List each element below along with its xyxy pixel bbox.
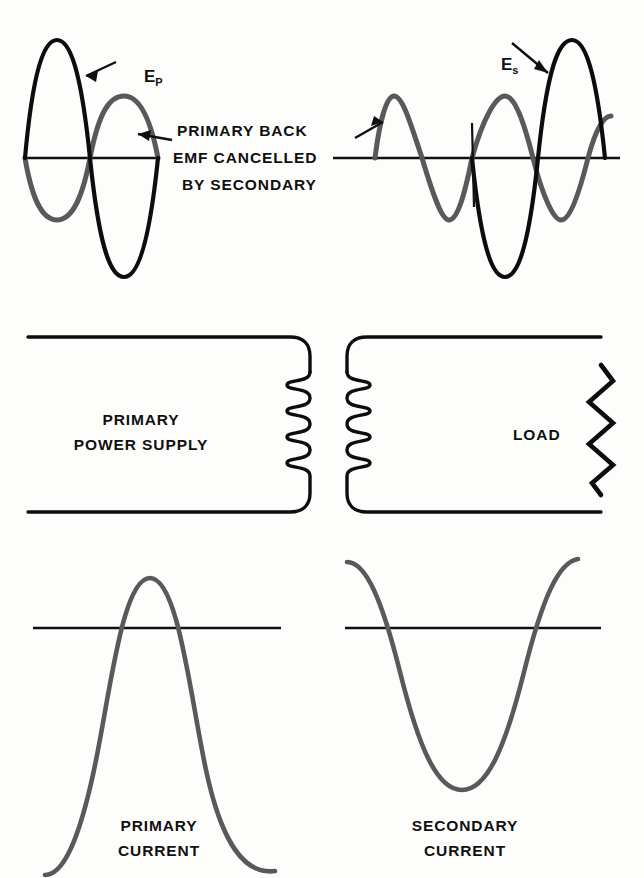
back-emf-annotation-line1: PRIMARY BACK — [177, 121, 308, 141]
secondary-current-label-line1: SECONDARY — [397, 816, 533, 836]
load-label: LOAD — [513, 425, 561, 445]
ep-leader-arrow — [86, 62, 116, 82]
secondary-bottom-wire — [347, 477, 601, 512]
primary-coil — [287, 372, 310, 476]
primary-source-label-line1: PRIMARY — [66, 410, 216, 430]
secondary-top-wire — [347, 337, 601, 372]
primary-top-wire — [28, 337, 310, 372]
primary-source-label-line2: POWER SUPPLY — [28, 435, 254, 455]
secondary-current-label-line2: CURRENT — [397, 841, 533, 861]
transformer-diagram-page: EP Es PRIMARY BACK EMF CANCELLED BY SECO… — [0, 0, 644, 878]
primary-bottom-wire — [28, 477, 310, 512]
load-resistor — [589, 365, 613, 495]
primary-current-label-line2: CURRENT — [104, 841, 214, 861]
secondary-coil — [347, 372, 370, 476]
es-label: Es — [482, 32, 518, 99]
ep-label: EP — [125, 44, 163, 111]
top-voltage-waveforms — [25, 40, 620, 277]
back-emf-annotation-line3: BY SECONDARY — [182, 175, 317, 195]
back-emf-annotation-line2: EMF CANCELLED — [173, 148, 317, 168]
secondary-current-curve — [347, 559, 578, 790]
phase-reference-tick — [472, 123, 474, 207]
primary-current-label-line1: PRIMARY — [104, 816, 214, 836]
